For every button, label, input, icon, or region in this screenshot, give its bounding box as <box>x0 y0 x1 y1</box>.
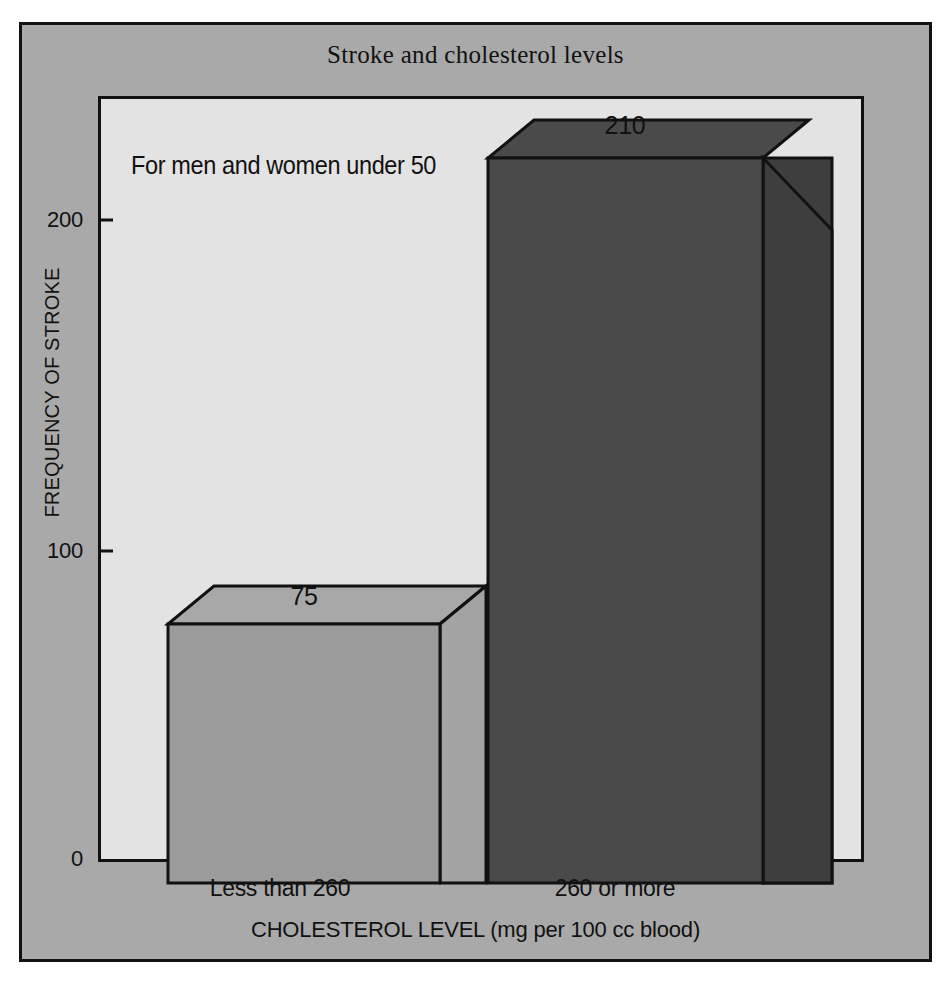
y-tick-label-0: 0 <box>22 846 83 872</box>
bar-260-or-more[interactable] <box>488 120 832 883</box>
y-axis-ticks <box>98 96 114 862</box>
chart-title: Stroke and cholesterol levels <box>22 41 929 69</box>
bar-less-than-260[interactable] <box>168 586 486 883</box>
y-tick-mark-100 <box>98 550 113 553</box>
x-category-label-1: Less than 260 <box>127 875 433 902</box>
bar-value-label-1: 75 <box>137 582 471 611</box>
bar-2-side-face-beveled <box>763 158 832 883</box>
plot-area: For men and women under 50 75 210 <box>98 96 864 862</box>
x-category-label-2: 260 or more <box>462 875 768 902</box>
bar-1-front-face <box>168 624 440 883</box>
y-tick-mark-200 <box>98 219 113 222</box>
chart-figure: Stroke and cholesterol levels For men an… <box>19 22 932 962</box>
x-axis-title: CHOLESTEROL LEVEL (mg per 100 cc blood) <box>22 917 929 943</box>
bar-2-front-face <box>488 158 763 883</box>
bar-value-label-2: 210 <box>458 111 792 140</box>
bar-1-side-face <box>440 586 486 883</box>
y-axis-title: FREQUENCY OF STROKE <box>41 203 64 583</box>
bars-group <box>101 99 861 859</box>
